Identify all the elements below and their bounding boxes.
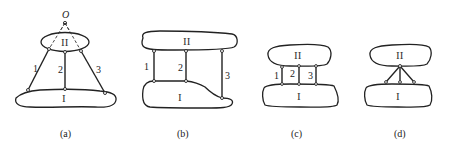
body-i (16, 89, 116, 107)
link-1 (386, 66, 400, 82)
panel-caption: (a) (60, 128, 71, 140)
panel-b: II I 1 2 3 (b) (142, 31, 237, 140)
link-3 (81, 51, 105, 93)
body-i-label: I (396, 90, 400, 102)
body-ii-label: II (183, 35, 191, 47)
link-1-label: 1 (274, 70, 279, 81)
panel-caption: (d) (394, 128, 406, 140)
link-1-label: 1 (33, 63, 38, 74)
panel-caption: (c) (291, 128, 302, 140)
body-i-label: I (297, 90, 301, 102)
body-i-label: I (62, 92, 66, 104)
common-hinge (399, 65, 402, 68)
link-2-label: 2 (178, 62, 183, 73)
link-3 (400, 66, 414, 82)
panel-d: II I (d) (365, 44, 432, 140)
link-2-label: 2 (58, 64, 63, 75)
link-2-label: 2 (290, 68, 295, 79)
body-ii-label: II (396, 49, 404, 61)
body-ii-label: II (294, 49, 302, 61)
link-3-label: 3 (308, 70, 313, 81)
panel-caption: (b) (177, 128, 189, 140)
point-o-label: O (62, 9, 69, 20)
body-ii-label: II (61, 36, 69, 48)
panel-c: II I 1 2 3 (c) (263, 44, 339, 140)
link-1 (28, 49, 49, 90)
link-1-label: 1 (144, 61, 149, 72)
panel-a: O II I 1 2 3 (a) (16, 9, 116, 140)
body-i (143, 81, 233, 108)
link-3-label: 3 (96, 64, 101, 75)
body-i-label: I (178, 91, 182, 103)
figure-canvas: O II I 1 2 3 (a) II I 1 2 3 (b) (0, 0, 450, 147)
link-3-label: 3 (225, 70, 230, 81)
